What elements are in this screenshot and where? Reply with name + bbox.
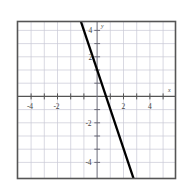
x-tick-label-4: 4: [148, 103, 152, 111]
x-tick-label-neg2: -2: [54, 103, 60, 111]
plot-background: [18, 22, 176, 179]
x-tick-label-2: 2: [122, 103, 126, 111]
y-tick-label-2: 2: [89, 54, 93, 62]
y-tick-label-neg4: -4: [86, 159, 92, 167]
x-tick-label-neg4: -4: [27, 103, 33, 111]
graph-canvas: [0, 0, 189, 193]
y-axis-title: y: [101, 23, 104, 29]
coordinate-graph: -4 -2 2 4 4 2 -2 -4 x y: [0, 0, 189, 193]
x-axis-title: x: [168, 87, 171, 93]
y-tick-label-neg2: -2: [86, 120, 92, 128]
y-tick-label-4: 4: [89, 27, 93, 35]
